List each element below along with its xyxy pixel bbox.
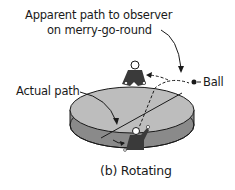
apparent-path-label-line2: on merry-go-round — [47, 24, 152, 37]
ball-label: Ball — [203, 76, 224, 89]
actual-path-label: Actual path — [16, 85, 80, 98]
apparent-path-arrow — [149, 75, 168, 80]
observer-figure-top — [122, 61, 146, 86]
apparent-path-label-line1: Apparent path to observer — [25, 9, 172, 22]
apparent-label-arrowhead-icon — [178, 66, 184, 73]
apparent-label-leader — [161, 30, 181, 68]
ball — [192, 80, 197, 85]
caption: (b) Rotating — [100, 164, 172, 177]
arrowhead-icon — [146, 72, 152, 78]
